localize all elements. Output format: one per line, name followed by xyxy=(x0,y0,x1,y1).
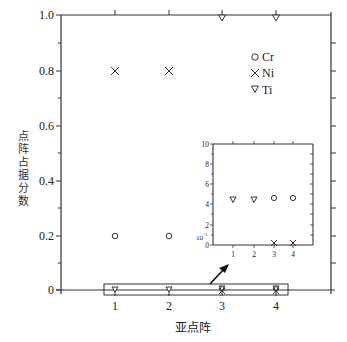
inset-x-tick-label: 2 xyxy=(252,250,256,259)
inset-y-tick-label: 2 xyxy=(205,221,209,230)
series-cr-markers xyxy=(112,233,172,239)
triangle-down-icon xyxy=(252,86,259,93)
y-tick-label: 0 xyxy=(48,283,54,297)
legend-item-ni: Ni xyxy=(251,66,275,80)
circle-icon xyxy=(252,54,258,60)
inset-x-tick-label: 4 xyxy=(291,250,295,259)
inset-chart: 10 8 6 4 2 0 10 -3 1 2 3 4 xyxy=(196,140,313,259)
x-tick-label: 4 xyxy=(273,299,279,313)
occupancy-chart: 1.0 0.8 0.6 0.4 0.2 0 1 2 3 4 亚点阵 xyxy=(0,0,347,342)
inset-y-tick-label: 4 xyxy=(205,200,209,209)
inset-y-tick-label: 6 xyxy=(205,180,209,189)
legend-item-ti: Ti xyxy=(252,83,273,97)
x-axis-label: 亚点阵 xyxy=(175,321,211,335)
series-ni-markers xyxy=(111,67,173,75)
arrow-icon xyxy=(210,264,229,284)
legend-label: Ti xyxy=(262,83,273,97)
y-tick-label: 1.0 xyxy=(39,8,54,22)
inset-scale-exp: -3 xyxy=(203,232,208,237)
y-tick-label: 0.2 xyxy=(39,229,54,243)
inset-x-tick-label: 3 xyxy=(272,250,276,259)
inset-y-tick-label: 8 xyxy=(205,160,209,169)
y-axis-label: 点阵占据分数 xyxy=(16,130,30,208)
legend: Cr Ni Ti xyxy=(251,50,275,97)
inset-x-tick-labels: 1 2 3 4 xyxy=(231,250,295,259)
x-tick-label: 3 xyxy=(219,299,225,313)
x-mark-icon xyxy=(251,69,259,77)
inset-y-tick-label: 0 xyxy=(205,241,209,250)
y-tick-label: 0.6 xyxy=(39,119,54,133)
y-axis-label-text: 点阵占据分数 xyxy=(18,130,29,208)
inset-y-tick-label: 10 xyxy=(202,140,210,149)
x-tick-labels: 1 2 3 4 xyxy=(112,299,279,313)
x-tick-label: 1 xyxy=(112,299,118,313)
legend-item-cr: Cr xyxy=(252,50,274,64)
y-tick-label: 0.4 xyxy=(39,174,54,188)
x-tick-label: 2 xyxy=(166,299,172,313)
inset-x-tick-label: 1 xyxy=(231,250,235,259)
legend-label: Ni xyxy=(262,66,275,80)
y-tick-label: 0.8 xyxy=(39,64,54,78)
y-tick-labels: 1.0 0.8 0.6 0.4 0.2 0 xyxy=(39,8,54,297)
legend-label: Cr xyxy=(262,50,274,64)
